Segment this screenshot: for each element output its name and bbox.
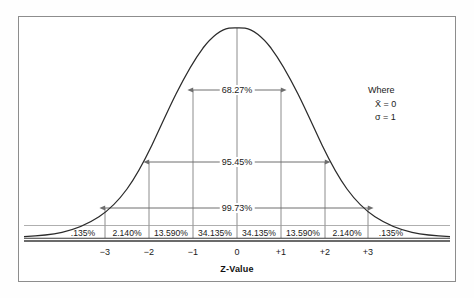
band-label-6: 2.140% — [332, 228, 361, 238]
band-label-0: .135% — [71, 228, 95, 238]
tick-label-minus2: −2 — [144, 247, 154, 257]
span-label-68: 68.27% — [220, 85, 255, 95]
chart-legend: Where X̄ = 0 σ = 1 — [368, 84, 396, 125]
tick-label-minus1: −1 — [188, 247, 198, 257]
x-axis-title: Z-Value — [220, 264, 253, 274]
legend-entry-sigma: σ = 1 — [368, 111, 396, 125]
baseline-axis — [24, 238, 450, 241]
span-label-99: 99.73% — [220, 203, 255, 213]
legend-heading: Where — [368, 84, 396, 98]
tick-label-plus2: +2 — [320, 247, 330, 257]
tick-label-minus3: −3 — [100, 247, 110, 257]
band-label-1: 2.140% — [112, 228, 141, 238]
band-label-2: 13.590% — [154, 228, 188, 238]
chart-canvas: .135% 2.140% 13.590% 34.135% 34.135% 13.… — [0, 0, 474, 298]
band-label-3: 34.135% — [198, 228, 232, 238]
band-label-4: 34.135% — [242, 228, 276, 238]
tick-label-plus3: +3 — [363, 247, 373, 257]
band-label-5: 13.590% — [286, 228, 320, 238]
legend-entry-mean: X̄ = 0 — [368, 98, 396, 112]
tick-label-zero: 0 — [234, 247, 239, 257]
span-label-95: 95.45% — [220, 157, 255, 167]
band-label-7: .135% — [379, 228, 403, 238]
tick-label-plus1: +1 — [276, 247, 286, 257]
